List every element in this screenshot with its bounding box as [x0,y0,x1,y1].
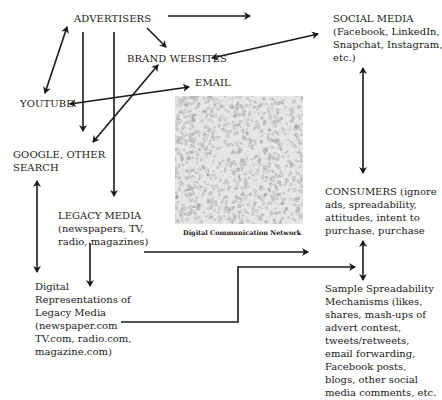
arrow-digital-spreadability [121,267,355,322]
arrow-brand-google [93,65,158,142]
node-email: EMAIL [195,76,231,89]
network-nodes-icon [175,96,303,224]
node-advertisers: ADVERTISERS [74,12,151,25]
arrow-advertisers-youtube [45,27,67,93]
node-consumers: CONSUMERS (ignore ads, spreadability, at… [325,185,437,237]
node-spreadability: Sample Spreadability Mechanisms (likes, … [325,282,436,399]
arrow-brand-social [212,34,318,58]
arrow-youtube-email [70,87,189,104]
network-graph-image [175,96,303,224]
node-youtube: YOUTUBE [20,97,74,110]
node-legacy-media: LEGACY MEDIA (newspapers, TV, radio, mag… [58,209,148,248]
node-google: GOOGLE, OTHER SEARCH [13,148,105,174]
node-social-media: SOCIAL MEDIA (Facebook, LinkedIn, Snapch… [333,12,442,64]
arrow-advertisers-brand [147,28,166,47]
node-brand-websites: BRAND WEBSITES [127,52,227,65]
node-digital-representations: Digital Representations of Legacy Media … [35,280,131,358]
network-caption: Digital Communication Network [183,229,301,237]
